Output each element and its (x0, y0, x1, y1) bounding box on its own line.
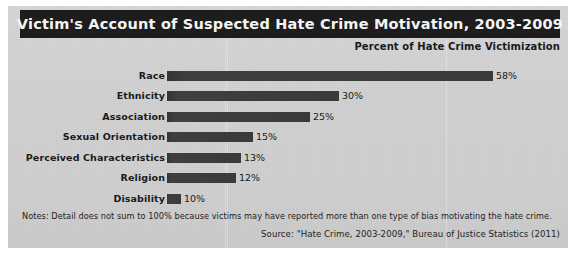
bar-value-label: 15% (256, 131, 277, 142)
chart-notes: Notes: Detail does not sum to 100% becau… (22, 211, 552, 221)
bar-category-label: Perceived Characteristics (0, 152, 165, 163)
chart-title: Victim's Account of Suspected Hate Crime… (17, 16, 563, 32)
bar-row: Disability10% (0, 192, 576, 208)
bar (167, 153, 241, 163)
bar-row: Ethnicity30% (0, 89, 576, 105)
bar-category-label: Disability (0, 193, 165, 204)
bar (167, 173, 236, 183)
bar-row: Perceived Characteristics13% (0, 151, 576, 167)
bar (167, 132, 253, 142)
bar-value-label: 58% (496, 70, 517, 81)
bar-value-label: 12% (239, 172, 260, 183)
bar (167, 71, 493, 81)
bar-value-label: 13% (244, 152, 265, 163)
bar-chart-plot: Race58%Ethnicity30%Association25%Sexual … (0, 64, 576, 204)
bar-value-label: 30% (342, 90, 363, 101)
bar-value-label: 25% (313, 111, 334, 122)
bar (167, 194, 181, 204)
title-band: Victim's Account of Suspected Hate Crime… (20, 10, 560, 38)
bar (167, 112, 310, 122)
chart-subtitle: Percent of Hate Crime Victimization (354, 41, 560, 52)
bar-row: Sexual Orientation15% (0, 130, 576, 146)
bar-category-label: Association (0, 111, 165, 122)
chart-source: Source: "Hate Crime, 2003-2009," Bureau … (261, 229, 560, 239)
bar-value-label: 10% (184, 193, 205, 204)
bar-category-label: Sexual Orientation (0, 131, 165, 142)
bar-category-label: Race (0, 70, 165, 81)
bar-row: Religion12% (0, 171, 576, 187)
bar-row: Race58% (0, 69, 576, 85)
bar-row: Association25% (0, 110, 576, 126)
bar-category-label: Ethnicity (0, 90, 165, 101)
chart-figure: Victim's Account of Suspected Hate Crime… (0, 0, 576, 254)
bar (167, 91, 339, 101)
bar-category-label: Religion (0, 172, 165, 183)
